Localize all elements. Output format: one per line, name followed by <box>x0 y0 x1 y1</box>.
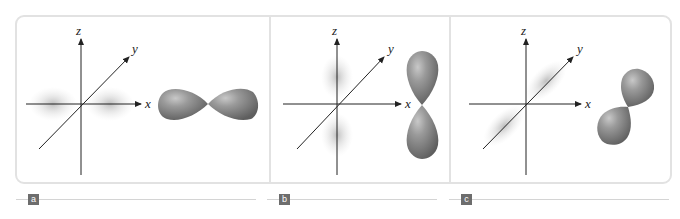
y-axis-label: y <box>575 41 583 56</box>
z-axis-label: z <box>331 23 337 38</box>
pz-orbital-diagram: z y x <box>271 15 449 184</box>
py-orbital-diagram: z y x <box>451 15 670 184</box>
panel-label-badge: a <box>28 194 39 205</box>
caption-rule <box>449 199 669 200</box>
y-axis-label: y <box>386 41 394 56</box>
x-axis-label: x <box>144 96 151 111</box>
y-axis-label: y <box>130 41 138 56</box>
x-axis-label: x <box>404 96 411 111</box>
caption-rule <box>16 199 256 200</box>
electron-cloud <box>476 98 531 153</box>
panel-c: z y x <box>451 15 670 184</box>
caption-b: b <box>279 194 439 206</box>
electron-cloud <box>518 53 573 108</box>
panel-b: z y x <box>271 15 449 184</box>
z-axis-label: z <box>520 23 526 38</box>
z-axis-label: z <box>75 23 81 38</box>
panel-label-badge: b <box>279 194 290 205</box>
pz-orbital-lobes <box>407 51 439 159</box>
caption-rule <box>267 199 437 200</box>
px-orbital-diagram: z y x <box>17 15 269 184</box>
caption-a: a <box>28 194 258 206</box>
x-axis-label: x <box>584 96 591 111</box>
panel-label-badge: c <box>461 194 472 205</box>
y-axis <box>483 57 573 149</box>
px-orbital-lobes <box>158 89 258 120</box>
panel-a: z y x <box>17 15 269 184</box>
caption-c: c <box>461 194 671 206</box>
py-orbital-lobes <box>597 69 654 145</box>
